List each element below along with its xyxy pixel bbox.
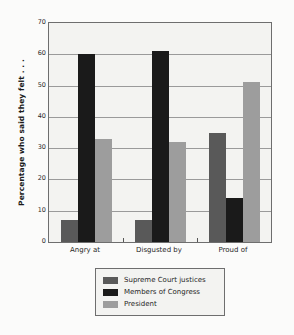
bar [135, 220, 152, 242]
y-axis-tick-labels: 010203040506070 [26, 0, 46, 335]
legend-color-swatch [103, 277, 118, 284]
bar [78, 54, 95, 242]
y-tick-label: 20 [30, 174, 46, 182]
y-tick-label: 70 [30, 18, 46, 26]
legend-item: Members of Congress [103, 286, 217, 298]
x-axis-tick-mark [123, 238, 124, 242]
legend-label: President [124, 300, 157, 308]
y-tick-label: 30 [30, 143, 46, 151]
x-tick-label: Disgusted by [136, 246, 182, 254]
bar [169, 142, 186, 242]
y-tick-label: 10 [30, 206, 46, 214]
y-tick-label: 60 [30, 49, 46, 57]
bar [243, 82, 260, 242]
legend-label: Supreme Court justices [124, 276, 206, 284]
x-axis-tick-labels: Angry atDisgusted byProud of [48, 246, 272, 260]
bar [152, 51, 169, 242]
legend-color-swatch [103, 289, 118, 296]
y-tick-label: 40 [30, 112, 46, 120]
bar [226, 198, 243, 242]
legend-color-swatch [103, 301, 118, 308]
bar [209, 133, 226, 243]
bar-chart-figure: Percentage who said they felt . . . 0102… [0, 0, 294, 335]
legend-item: Supreme Court justices [103, 274, 217, 286]
bar-series-group [49, 23, 271, 242]
y-tick-label: 0 [30, 237, 46, 245]
y-tick-label: 50 [30, 81, 46, 89]
bar [95, 139, 112, 242]
legend-label: Members of Congress [124, 288, 200, 296]
x-axis-tick-mark [197, 238, 198, 242]
x-tick-label: Proud of [219, 246, 248, 254]
legend-item: President [103, 298, 217, 310]
x-tick-label: Angry at [70, 246, 100, 254]
chart-legend: Supreme Court justicesMembers of Congres… [95, 268, 225, 316]
plot-area [48, 22, 272, 243]
bar [61, 220, 78, 242]
